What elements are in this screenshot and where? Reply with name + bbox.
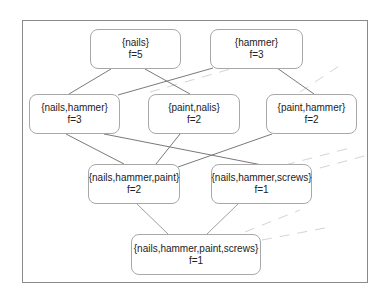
- edge-hammer-to-nails-hammer: [118, 68, 213, 95]
- frequency-label: f=3: [67, 114, 81, 126]
- frequency-label: f=3: [249, 49, 263, 61]
- lattice-node-nails-hammer: {nails,hammer} f=3: [29, 94, 120, 134]
- itemset-label: {nails}: [122, 37, 149, 49]
- edge-nails-hammer-to-nails-hammer-screws: [104, 134, 262, 165]
- itemset-label: {hammer}: [235, 37, 278, 49]
- edge-nails-hammer-to-nails-hammer-paint: [66, 134, 124, 164]
- edge-nails-to-nails-hammer: [69, 69, 111, 94]
- lattice-node-nails-hammer-screws: {nails,hammer,screws} f=1: [211, 164, 312, 204]
- edge-paint-nalis-to-nails-hammer-paint: [156, 134, 180, 164]
- edge-nails-hammer-paint-to-all: [137, 204, 168, 234]
- frequency-label: f=2: [304, 114, 318, 126]
- edge-paint-hammer-to-nails-hammer-paint: [178, 134, 272, 167]
- itemset-label: {nails,hammer,paint,screws}: [134, 243, 259, 255]
- itemset-label: {nails,hammer,screws}: [211, 172, 311, 184]
- faint-dashed-lines: [150, 60, 368, 240]
- edge-nails-to-paint-nalis: [145, 69, 190, 94]
- frequency-label: f=5: [128, 49, 142, 61]
- lattice-node-paint-hammer: {paint,hammer} f=2: [266, 94, 357, 134]
- lattice-node-nails-hammer-paint: {nails,hammer,paint} f=2: [88, 164, 180, 204]
- itemset-label: {paint,hammer}: [278, 102, 346, 114]
- frequency-label: f=2: [187, 114, 201, 126]
- itemset-label: {nails,hammer,paint}: [89, 172, 180, 184]
- edge-nails-hammer-screws-to-all: [207, 204, 238, 234]
- lattice-node-nails: {nails} f=5: [90, 29, 181, 69]
- lattice-node-nails-hammer-paint-screws: {nails,hammer,paint,screws} f=1: [131, 234, 261, 275]
- itemset-label: {nails,hammer}: [41, 102, 108, 114]
- frequency-label: f=1: [189, 255, 203, 267]
- itemset-label: {paint,nalis}: [168, 102, 220, 114]
- edge-hammer-to-paint-hammer: [277, 68, 314, 94]
- lattice-node-hammer: {hammer} f=3: [210, 29, 303, 69]
- lattice-node-paint-nalis: {paint,nalis} f=2: [148, 94, 240, 134]
- frequency-label: f=2: [127, 184, 141, 196]
- frequency-label: f=1: [254, 184, 268, 196]
